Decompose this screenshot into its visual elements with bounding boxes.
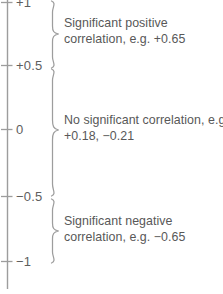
tick-label-minus-1: −1: [16, 255, 31, 268]
annotation-significant-positive: Significant positive correlation, e.g. +…: [64, 15, 185, 47]
annotation-positive-line-2: correlation, e.g. +0.65: [64, 31, 185, 47]
annotation-no-significant: No significant correlation, e.g. +0.18, …: [64, 112, 223, 144]
brace-significant-positive: [52, 1, 59, 68]
annotation-none-line-2: +0.18, −0.21: [64, 128, 223, 144]
brace-no-significant: [52, 69, 59, 196]
tick-label-zero: 0: [16, 123, 23, 136]
annotation-positive-line-1: Significant positive: [64, 15, 185, 31]
annotation-significant-negative: Significant negative correlation, e.g. −…: [64, 213, 185, 245]
tick-label-plus-1: +1: [16, 0, 31, 9]
annotation-none-line-1: No significant correlation, e.g.: [64, 112, 223, 128]
annotation-negative-line-2: correlation, e.g. −0.65: [64, 229, 185, 245]
tick-label-plus-0-5: +0.5: [16, 59, 42, 72]
annotation-negative-line-1: Significant negative: [64, 213, 185, 229]
correlation-scale-figure: +1 +0.5 0 −0.5 −1 Significant positive c…: [0, 0, 223, 294]
brace-significant-negative: [52, 199, 59, 263]
tick-label-minus-0-5: −0.5: [16, 190, 42, 203]
